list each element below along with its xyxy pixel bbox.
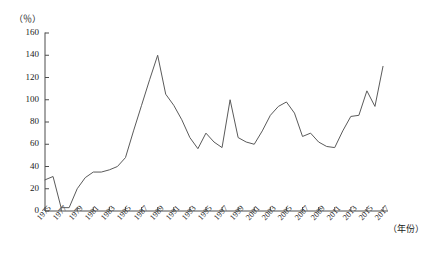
data-series-line xyxy=(45,55,383,207)
chart-axes xyxy=(45,33,388,212)
